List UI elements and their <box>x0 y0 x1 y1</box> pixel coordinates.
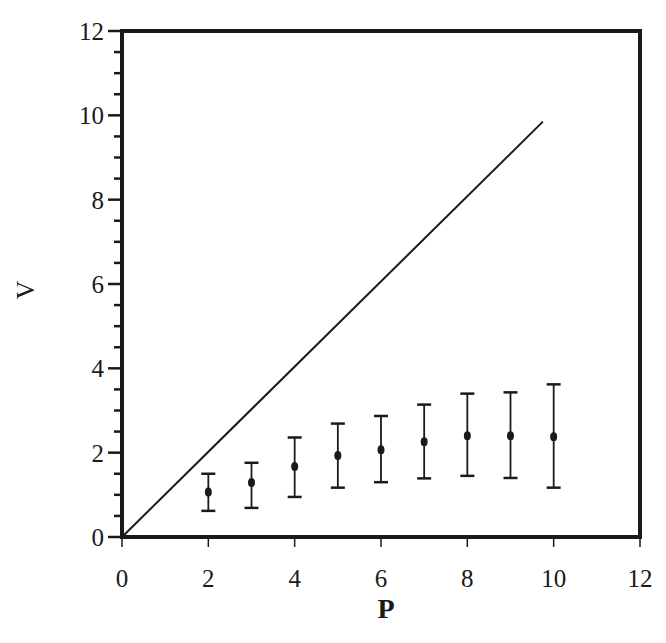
mean-marker <box>334 451 341 460</box>
x-axis-label: P <box>377 593 394 624</box>
mean-marker <box>205 487 212 496</box>
mean-marker <box>507 431 514 440</box>
x-tick-label: 0 <box>116 565 129 592</box>
error-bar-series <box>201 384 560 511</box>
y-axis-ticks: 024681012 <box>79 18 122 551</box>
error-bar-point <box>201 474 215 511</box>
error-bar-point <box>374 416 388 482</box>
error-bar-point <box>288 437 302 496</box>
y-tick-label: 6 <box>92 271 105 298</box>
x-tick-label: 4 <box>288 565 301 592</box>
y-tick-label: 4 <box>92 355 105 382</box>
error-bar-point <box>547 384 561 487</box>
error-bar-point <box>331 424 345 488</box>
error-bar-point <box>245 463 259 508</box>
mean-marker <box>291 462 298 471</box>
y-tick-label: 12 <box>79 18 104 45</box>
error-bar-point <box>417 405 431 479</box>
y-tick-label: 10 <box>79 102 104 129</box>
error-bar-point <box>460 394 474 476</box>
mean-marker <box>378 445 385 454</box>
y-tick-label: 0 <box>92 524 105 551</box>
x-axis-ticks: 024681012 <box>116 539 653 592</box>
x-tick-label: 10 <box>541 565 566 592</box>
mean-marker <box>248 478 255 487</box>
error-bar-point <box>504 392 518 478</box>
y-tick-label: 8 <box>92 187 105 214</box>
reference-line <box>122 122 543 537</box>
x-tick-label: 6 <box>375 565 388 592</box>
chart: 024681012 024681012 P V <box>0 0 666 643</box>
x-tick-label: 8 <box>461 565 474 592</box>
mean-marker <box>464 431 471 440</box>
line-v-equals-p <box>122 122 543 537</box>
x-tick-label: 2 <box>202 565 215 592</box>
mean-marker <box>550 432 557 441</box>
x-tick-label: 12 <box>628 565 653 592</box>
mean-marker <box>421 437 428 446</box>
y-axis-label: V <box>11 280 40 299</box>
y-tick-label: 2 <box>92 440 105 467</box>
